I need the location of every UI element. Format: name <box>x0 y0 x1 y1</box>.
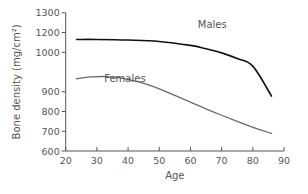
x-ticks: 2030405060708090 <box>60 147 290 166</box>
x-tick-label: 70 <box>216 155 228 166</box>
y-ticks: 600700800900100012001300 <box>36 7 66 156</box>
y-tick-label: 700 <box>42 126 60 137</box>
y-axis-title: Bone density (mg/cm²) <box>11 24 22 139</box>
bone-density-chart: 600700800900100012001300 203040506070809… <box>0 0 308 194</box>
y-tick-label: 800 <box>42 106 60 117</box>
series-line-females <box>77 76 272 133</box>
x-tick-label: 50 <box>153 155 165 166</box>
y-tick-label: 1200 <box>36 27 60 38</box>
series-labels: MalesFemales <box>104 19 226 84</box>
y-tick-label: 1300 <box>36 7 60 18</box>
x-axis-title: Age <box>165 170 184 181</box>
y-tick-label: 900 <box>42 86 60 97</box>
x-tick-label: 40 <box>122 155 134 166</box>
y-axis: 600700800900100012001300 <box>36 7 66 156</box>
x-tick-label: 80 <box>247 155 259 166</box>
x-axis: 2030405060708090 <box>60 147 290 166</box>
x-tick-label: 60 <box>184 155 196 166</box>
y-tick-label: 1000 <box>36 47 60 58</box>
x-tick-label: 30 <box>91 155 103 166</box>
series-line-males <box>77 39 272 96</box>
x-tick-label: 20 <box>60 155 72 166</box>
x-tick-label: 90 <box>278 155 290 166</box>
y-tick-label: 600 <box>42 146 60 157</box>
series-label-males: Males <box>198 19 227 30</box>
series-label-females: Females <box>104 73 145 84</box>
series-lines <box>77 39 272 133</box>
